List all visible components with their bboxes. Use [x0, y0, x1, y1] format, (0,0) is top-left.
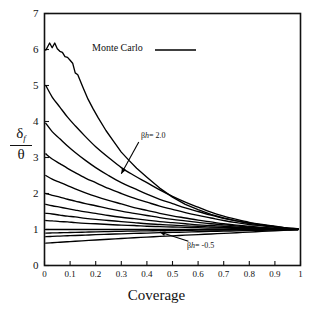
curve-4	[46, 176, 298, 230]
y-axis-title: δf θ	[3, 126, 39, 162]
curve-1	[46, 86, 298, 229]
x-tick-label: 0.7	[213, 270, 235, 279]
arrow-beta-h-2	[121, 142, 138, 174]
chart-figure: 01234567 00.10.20.30.40.50.60.70.80.91 δ…	[0, 0, 313, 316]
curve-0	[46, 43, 298, 229]
x-tick-label: 0.9	[264, 270, 286, 279]
x-tick-label: 0.8	[238, 270, 260, 279]
x-tick-label: 0.1	[59, 270, 81, 279]
x-tick-label: 0	[34, 270, 56, 279]
y-tick-label: 1	[25, 224, 39, 235]
x-tick-label: 0.6	[187, 270, 209, 279]
x-tick-label: 0.2	[85, 270, 107, 279]
y-tick-label: 7	[25, 8, 39, 19]
x-tick-label: 1	[290, 270, 312, 279]
annotation-label-beta-h-2: βh= 2.0	[141, 132, 166, 140]
y-axis-denominator: θ	[3, 147, 39, 162]
x-tick-label: 0.4	[136, 270, 158, 279]
legend-label-monte-carlo: Monte Carlo	[92, 43, 143, 53]
annotation-label-beta-h-neg05: βh= -0.5	[187, 242, 214, 250]
y-axis-numerator: δf	[3, 126, 39, 144]
x-tick-label: 0.5	[162, 270, 184, 279]
curve-2	[46, 123, 298, 228]
x-axis-title: Coverage	[0, 288, 313, 303]
x-tick-label: 0.3	[110, 270, 132, 279]
y-tick-label: 5	[25, 80, 39, 91]
y-tick-label: 6	[25, 44, 39, 55]
y-tick-label: 2	[25, 188, 39, 199]
data-curves	[46, 43, 298, 243]
